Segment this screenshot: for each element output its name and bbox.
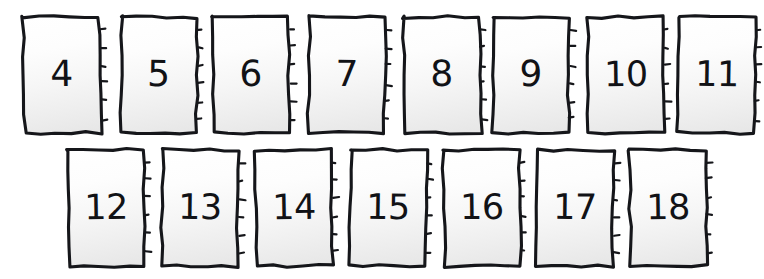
card-number-label: 15: [366, 189, 410, 224]
number-card-17[interactable]: 17: [536, 150, 613, 267]
card-number-label: 18: [646, 189, 690, 224]
card-number-label: 4: [50, 56, 74, 92]
number-card-4[interactable]: 4: [23, 17, 101, 134]
number-card-8[interactable]: 8: [403, 17, 481, 134]
card-number-label: 14: [272, 189, 316, 224]
card-board: 4567891011 12131415161718: [0, 0, 764, 279]
card-number-label: 5: [147, 56, 171, 92]
number-card-12[interactable]: 12: [67, 150, 145, 267]
number-card-14[interactable]: 14: [255, 150, 333, 267]
card-row-top: 4567891011: [0, 17, 764, 137]
number-card-15[interactable]: 15: [349, 150, 427, 267]
card-number-label: 6: [239, 56, 263, 92]
number-card-13[interactable]: 13: [161, 150, 239, 267]
card-number-label: 7: [335, 56, 359, 92]
card-number-label: 8: [430, 56, 454, 92]
number-card-18[interactable]: 18: [629, 150, 707, 267]
card-number-label: 16: [460, 189, 504, 224]
number-card-11[interactable]: 11: [678, 17, 756, 134]
card-number-label: 11: [695, 56, 739, 91]
number-card-9[interactable]: 9: [492, 17, 569, 133]
card-number-label: 10: [604, 56, 648, 91]
number-card-5[interactable]: 5: [120, 17, 198, 134]
card-number-label: 13: [178, 189, 222, 224]
number-card-10[interactable]: 10: [587, 17, 664, 134]
number-card-7[interactable]: 7: [308, 17, 385, 134]
number-card-6[interactable]: 6: [212, 17, 289, 133]
card-row-bottom: 12131415161718: [0, 150, 764, 270]
card-number-label: 12: [84, 189, 128, 224]
card-number-label: 9: [519, 56, 543, 92]
card-number-label: 17: [553, 189, 597, 224]
number-card-16[interactable]: 16: [443, 150, 520, 266]
